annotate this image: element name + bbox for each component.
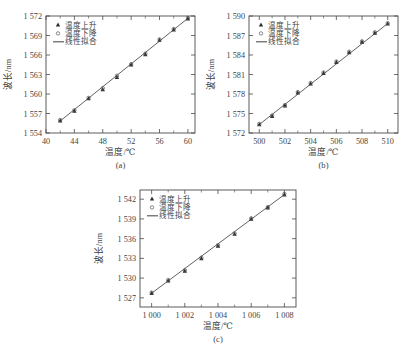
legend-label-fit: 线性拟合	[65, 36, 97, 46]
x-axis-title: 温度/℃	[105, 146, 135, 157]
x-tick-label: 60	[184, 137, 192, 146]
legend-label-fit: 线性拟合	[268, 36, 300, 46]
y-tick-label: 1 569	[24, 32, 42, 41]
x-tick-label: 56	[155, 137, 163, 146]
x-tick-label: 1 004	[209, 311, 227, 320]
legend-circle-open-icon	[150, 206, 153, 209]
x-tick-label: 506	[330, 137, 342, 146]
y-tick-label: 1 536	[118, 235, 136, 244]
panel-caption: (a)	[116, 160, 126, 170]
y-tick-label: 1 554	[24, 129, 42, 138]
y-axis-title: 波长/nm	[205, 59, 216, 91]
legend-label-fit: 线性拟合	[159, 210, 191, 220]
y-tick-label: 1 575	[227, 110, 245, 119]
x-axis-title: 温度/℃	[203, 320, 233, 331]
chart-panel-b: 5005025045065085101 5721 5751 5781 5811 …	[201, 2, 403, 174]
y-tick-label: 1 572	[24, 12, 42, 21]
x-tick-label: 48	[99, 137, 107, 146]
chart-svg-a: 4044485256601 5541 5571 5601 5631 5661 5…	[0, 2, 200, 174]
legend-triangle-up-icon	[259, 23, 263, 27]
y-tick-label: 1 527	[118, 294, 136, 303]
x-tick-label: 1 002	[176, 311, 194, 320]
x-tick-label: 510	[382, 137, 394, 146]
chart-panel-a: 4044485256601 5541 5571 5601 5631 5661 5…	[0, 2, 200, 174]
y-tick-label: 1 572	[227, 129, 245, 138]
y-axis-title: 波长/nm	[2, 59, 13, 91]
y-tick-label: 1 587	[227, 32, 245, 41]
x-tick-label: 504	[305, 137, 317, 146]
chart-panel-c: 1 0001 0021 0041 0061 0081 5271 5301 533…	[78, 174, 326, 347]
x-tick-label: 1 006	[242, 311, 260, 320]
x-tick-label: 1 008	[275, 311, 293, 320]
y-tick-label: 1 542	[118, 195, 136, 204]
y-tick-label: 1 530	[118, 274, 136, 283]
y-tick-label: 1 560	[24, 90, 42, 99]
x-tick-label: 500	[253, 137, 265, 146]
x-tick-label: 1 000	[142, 311, 160, 320]
y-tick-label: 1 590	[227, 12, 245, 21]
y-tick-label: 1 584	[227, 51, 245, 60]
y-tick-label: 1 566	[24, 51, 42, 60]
x-tick-label: 40	[42, 137, 50, 146]
y-tick-label: 1 557	[24, 110, 42, 119]
chart-svg-c: 1 0001 0021 0041 0061 0081 5271 5301 533…	[78, 174, 326, 347]
y-tick-label: 1 563	[24, 71, 42, 80]
x-tick-label: 44	[70, 137, 78, 146]
chart-svg-b: 5005025045065085101 5721 5751 5781 5811 …	[201, 2, 403, 174]
x-tick-label: 502	[279, 137, 291, 146]
legend-circle-open-icon	[259, 32, 262, 35]
y-axis-title: 波长/nm	[93, 233, 104, 265]
y-tick-label: 1 533	[118, 254, 136, 263]
legend-triangle-up-icon	[56, 23, 60, 27]
x-tick-label: 508	[356, 137, 368, 146]
panel-caption: (c)	[213, 334, 223, 344]
y-tick-label: 1 578	[227, 90, 245, 99]
legend-triangle-up-icon	[150, 197, 154, 201]
y-tick-label: 1 539	[118, 215, 136, 224]
x-tick-label: 52	[127, 137, 135, 146]
x-axis-title: 温度/℃	[308, 146, 338, 157]
panel-caption: (b)	[318, 160, 328, 170]
legend-circle-open-icon	[56, 32, 59, 35]
y-tick-label: 1 581	[227, 71, 245, 80]
